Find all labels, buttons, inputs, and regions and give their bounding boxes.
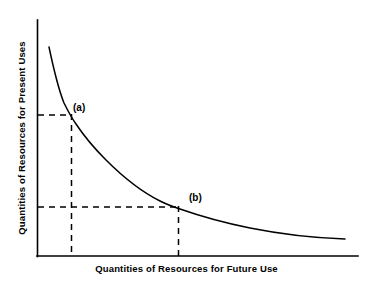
point-label-a: (a) (73, 103, 85, 113)
y-axis-title: Quantities of Resources for Present Uses (16, 41, 27, 234)
x-axis-title: Quantities of Resources for Future Use (0, 263, 373, 274)
point-label-b: (b) (189, 193, 202, 203)
chart-figure: (a) (b) Quantities of Resources for Futu… (0, 0, 373, 287)
y-axis-title-container: Quantities of Resources for Present Uses (12, 20, 30, 256)
chart-plot-area (0, 0, 373, 287)
tradeoff-curve (49, 47, 345, 239)
